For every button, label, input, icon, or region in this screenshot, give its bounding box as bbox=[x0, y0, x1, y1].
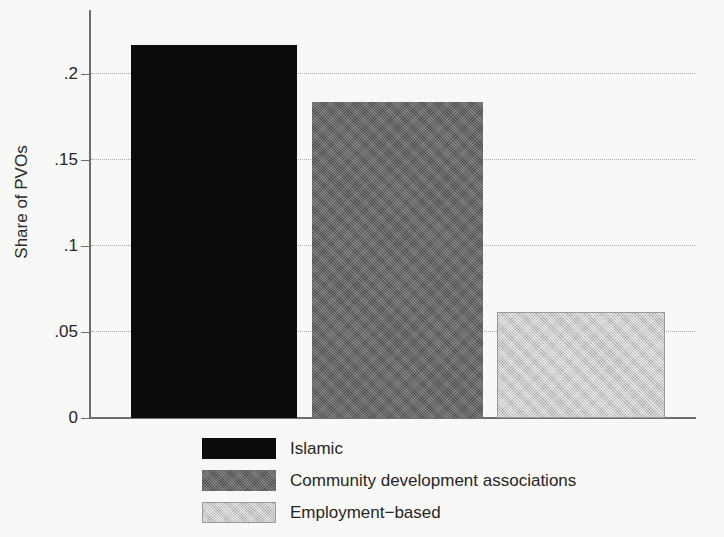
legend-label: Islamic bbox=[290, 440, 343, 457]
tick-label-wrap: .15 bbox=[0, 160, 78, 161]
tick-label-wrap: .05 bbox=[0, 332, 78, 333]
plot-area bbox=[90, 10, 695, 418]
tick-mark bbox=[81, 160, 90, 161]
y-tick-label: 0 bbox=[18, 409, 78, 426]
y-tick-label: .1 bbox=[18, 237, 78, 254]
bar-islamic bbox=[131, 45, 297, 418]
legend-item: Community development associations bbox=[202, 464, 576, 496]
legend-swatch-employment-based bbox=[202, 502, 276, 523]
y-tick-label: .15 bbox=[18, 151, 78, 168]
y-axis-title: Share of PVOs bbox=[12, 87, 32, 317]
tick-mark bbox=[81, 418, 90, 419]
y-tick-label: .05 bbox=[18, 323, 78, 340]
tick-mark bbox=[81, 246, 90, 247]
tick-label-wrap: 0 bbox=[0, 418, 78, 419]
legend-swatch-islamic bbox=[202, 438, 276, 459]
chart-figure: Share of PVOs .2.15.1.050 Islamic Commun… bbox=[0, 0, 724, 537]
bar-employment-based bbox=[497, 312, 665, 419]
legend-label: Employment−based bbox=[290, 504, 441, 521]
tick-label-wrap: .2 bbox=[0, 74, 78, 75]
tick-mark bbox=[81, 74, 90, 75]
bar-community-development-associations bbox=[312, 102, 483, 418]
legend-swatch-community-development bbox=[202, 470, 276, 491]
legend-label: Community development associations bbox=[290, 472, 576, 489]
y-tick-label: .2 bbox=[18, 65, 78, 82]
legend: Islamic Community development associatio… bbox=[202, 432, 576, 528]
legend-item: Employment−based bbox=[202, 496, 576, 528]
tick-mark bbox=[81, 332, 90, 333]
tick-label-wrap: .1 bbox=[0, 246, 78, 247]
legend-item: Islamic bbox=[202, 432, 576, 464]
